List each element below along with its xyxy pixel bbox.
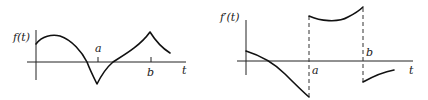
x-axis-label: t — [182, 64, 187, 77]
x-axis-label: t — [409, 64, 414, 77]
derivative-segment-2 — [309, 7, 363, 21]
derivative-segment-1 — [246, 51, 309, 97]
y-axis-label: f(t) — [12, 31, 30, 44]
function-graph: f(t) a b t — [12, 30, 187, 84]
marker-b-label: b — [366, 46, 373, 59]
marker-a-label: a — [95, 42, 102, 55]
derivative-graph: f′(t) a b t — [219, 7, 414, 97]
marker-b-label: b — [147, 66, 154, 79]
y-axis-label: f′(t) — [219, 11, 240, 24]
marker-a-label: a — [312, 64, 319, 77]
derivative-segment-3 — [363, 70, 394, 82]
calculus-figure: f(t) a b t f′(t) a b t — [0, 0, 428, 100]
